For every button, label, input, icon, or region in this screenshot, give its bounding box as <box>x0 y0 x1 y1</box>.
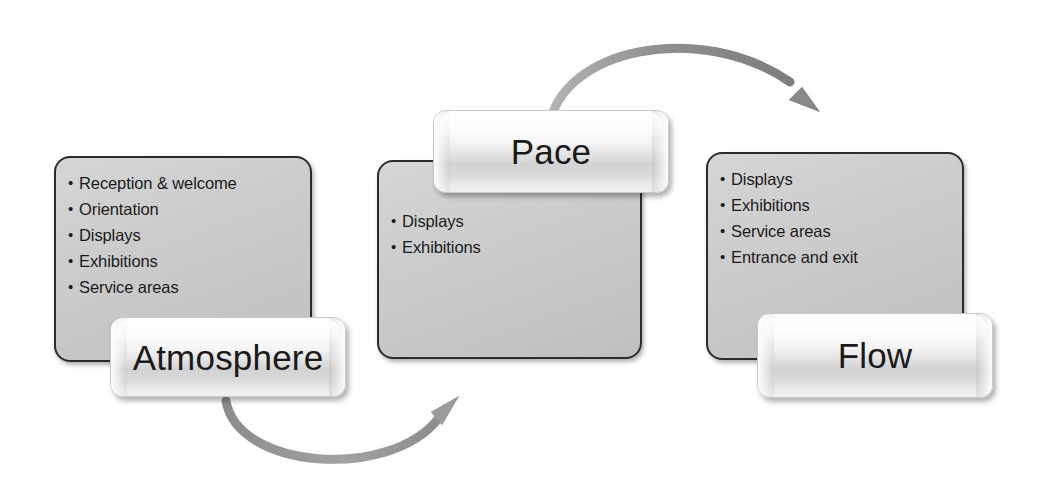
stage-label-text: Pace <box>511 134 592 169</box>
stage-item-list: Displays Exhibitions Service areas Entra… <box>720 166 952 270</box>
list-item: Service areas <box>720 218 952 244</box>
list-item: Displays <box>391 208 630 234</box>
list-item: Displays <box>68 222 300 248</box>
stage-item-list: Displays Exhibitions <box>391 208 630 260</box>
stage-item-list: Reception & welcome Orientation Displays… <box>68 170 300 300</box>
list-item: Exhibitions <box>720 192 952 218</box>
stage-label-text: Atmosphere <box>133 340 324 375</box>
list-item: Reception & welcome <box>68 170 300 196</box>
stage-label-flow[interactable]: Flow <box>757 313 993 398</box>
stage-label-text: Flow <box>838 338 913 373</box>
list-item: Service areas <box>68 274 300 300</box>
list-item: Exhibitions <box>391 234 630 260</box>
list-item: Exhibitions <box>68 248 300 274</box>
curved-arrow-up-right-icon <box>226 396 459 459</box>
stage-label-atmosphere[interactable]: Atmosphere <box>110 317 346 397</box>
list-item: Displays <box>720 166 952 192</box>
list-item: Orientation <box>68 196 300 222</box>
diagram-canvas: Reception & welcome Orientation Displays… <box>0 0 1044 494</box>
stage-label-pace[interactable]: Pace <box>433 110 669 193</box>
list-item: Entrance and exit <box>720 244 952 270</box>
